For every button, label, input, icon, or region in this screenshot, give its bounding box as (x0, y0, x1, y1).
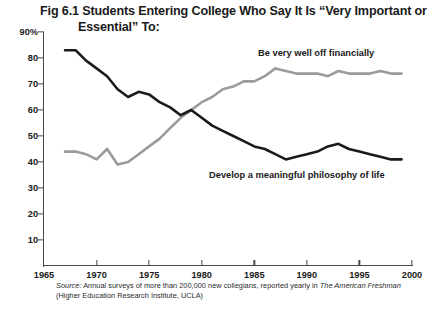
y-tick-label-70: 70 (4, 79, 38, 89)
y-tick-label-80: 80 (4, 53, 38, 63)
source-line-2: (Higher Education Research Institute, UC… (56, 291, 203, 300)
y-tick-label-10: 10 (4, 235, 38, 245)
y-tick-mark-70 (38, 83, 44, 84)
x-tick-label-1990: 1990 (297, 270, 317, 280)
series-line-develop-a-meaningful-philosophy-of-life (65, 50, 401, 159)
x-tick-label-1975: 1975 (139, 270, 159, 280)
chart-title: Fig 6.1 Students Entering College Who Sa… (40, 4, 436, 35)
x-tick-label-1985: 1985 (244, 270, 264, 280)
y-tick-label-40: 40 (4, 157, 38, 167)
y-tick-mark-90 (38, 31, 44, 32)
series-annotation-financial: Be very well off financially (258, 48, 374, 58)
y-tick-mark-30 (38, 187, 44, 188)
series-annotation-philosophy: Develop a meaningful philosophy of life (209, 170, 385, 180)
y-tick-label-50: 50 (4, 131, 38, 141)
y-tick-mark-40 (38, 161, 44, 162)
plot-area (44, 32, 412, 266)
source-prefix: Source: (56, 281, 81, 290)
x-tick-label-1980: 1980 (191, 270, 211, 280)
y-tick-label-30: 30 (4, 183, 38, 193)
y-tick-mark-80 (38, 57, 44, 58)
y-tick-mark-60 (38, 109, 44, 110)
y-tick-label-20: 20 (4, 209, 38, 219)
source-body: Annual surveys of more than 200,000 new … (81, 281, 319, 290)
x-tick-label-1970: 1970 (86, 270, 106, 280)
y-tick-mark-20 (38, 213, 44, 214)
x-tick-label-1965: 1965 (34, 270, 54, 280)
x-tick-label-2000: 2000 (402, 270, 422, 280)
y-tick-label-90: 90% (4, 27, 38, 37)
source-note: Source: Annual surveys of more than 200,… (56, 281, 434, 302)
y-tick-mark-50 (38, 135, 44, 136)
chart-title-line-1: Fig 6.1 Students Entering College Who Sa… (40, 4, 427, 18)
figure-chart: Fig 6.1 Students Entering College Who Sa… (0, 0, 440, 312)
x-tick-label-1995: 1995 (349, 270, 369, 280)
y-tick-label-60: 60 (4, 105, 38, 115)
source-publication: The American Freshman (320, 281, 401, 290)
y-tick-mark-10 (38, 239, 44, 240)
